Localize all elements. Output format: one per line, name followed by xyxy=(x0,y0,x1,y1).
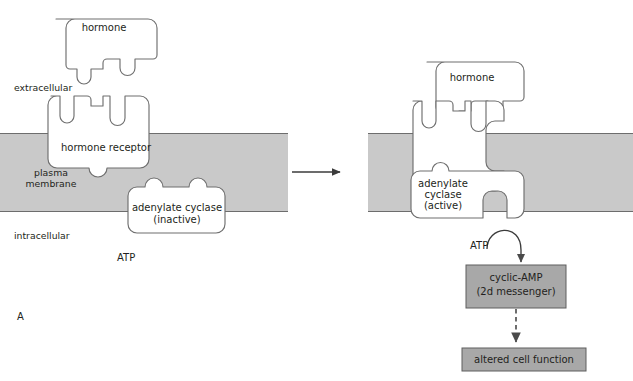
diagram-svg xyxy=(0,0,633,381)
panel-label-a: A xyxy=(17,311,24,323)
label-plasma-membrane: plasma membrane xyxy=(12,168,90,190)
label-extracellular: extracellular xyxy=(14,83,72,94)
label-intracellular: intracellular xyxy=(14,231,70,242)
label-adenylate-cyclase-state-right: (active) xyxy=(412,200,474,212)
label-atp-right: ATP xyxy=(470,240,488,252)
label-hormone-receptor-left: hormone receptor xyxy=(46,142,166,154)
label-adenylate-cyclase-left: adenylate cyclase xyxy=(127,202,227,214)
hormone-receptor-shape-left xyxy=(48,96,149,177)
atp-conversion-arrow xyxy=(487,230,521,262)
label-hormone-right: hormone xyxy=(428,72,516,84)
label-altered-cell-function: altered cell function xyxy=(462,354,586,366)
label-hormone-left: hormone xyxy=(58,22,150,34)
label-atp-left: ATP xyxy=(117,252,135,264)
label-adenylate-cyclase-state-left: (inactive) xyxy=(127,214,227,226)
label-cyclic-amp-1: cyclic-AMP xyxy=(466,272,566,284)
figure-canvas: extracellular plasma membrane intracellu… xyxy=(0,0,633,381)
label-cyclic-amp-2: (2d messenger) xyxy=(466,286,566,298)
